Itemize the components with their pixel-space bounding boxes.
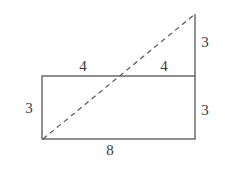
rectangle (42, 76, 195, 139)
label-top-right-segment: 4 (160, 58, 168, 74)
label-bottom-side: 8 (106, 142, 114, 158)
label-right-lower-side: 3 (201, 102, 209, 118)
geometry-diagram: 4 4 3 3 3 8 (0, 0, 225, 170)
label-left-side: 3 (25, 100, 33, 116)
label-top-left-segment: 4 (79, 58, 87, 74)
label-right-extension: 3 (201, 34, 209, 50)
